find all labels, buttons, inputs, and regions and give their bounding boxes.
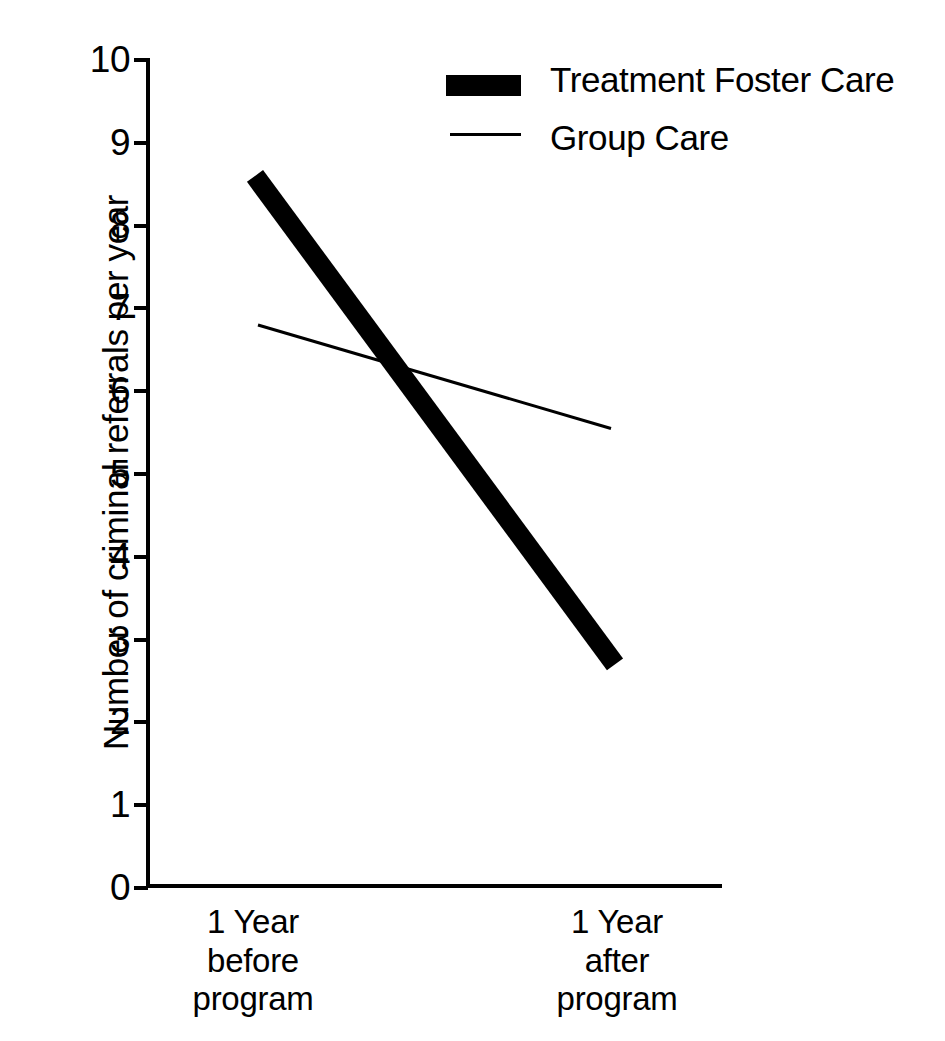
y-tick-label-5: 5 xyxy=(40,455,130,492)
x-tick-before-line1: 1 Year xyxy=(123,903,383,942)
x-tick-before-line3: program xyxy=(123,980,383,1019)
legend-label-group-care: Group Care xyxy=(550,120,729,155)
y-tick-label-10: 10 xyxy=(40,41,130,78)
x-tick-before-line2: before xyxy=(123,942,383,981)
y-tick-label-1: 1 xyxy=(40,786,130,823)
chart-legend: Treatment Foster Care Group Care xyxy=(440,62,940,178)
y-tick-label-6: 6 xyxy=(40,372,130,409)
y-tick-label-7: 7 xyxy=(40,289,130,326)
legend-item-treatment-foster-care: Treatment Foster Care xyxy=(440,62,940,120)
y-tick-label-8: 8 xyxy=(40,207,130,244)
x-tick-label-after: 1 Year after program xyxy=(487,903,747,1019)
chart-figure: Number of criminal referrals per year 10… xyxy=(0,0,945,1041)
x-tick-after-line2: after xyxy=(487,942,747,981)
legend-label-treatment-foster-care: Treatment Foster Care xyxy=(550,62,894,97)
legend-item-group-care: Group Care xyxy=(440,120,940,178)
y-tick-label-2: 2 xyxy=(40,703,130,740)
legend-thin-line-swatch-icon xyxy=(450,133,521,136)
x-tick-after-line1: 1 Year xyxy=(487,903,747,942)
series-line-treatment-foster-care xyxy=(255,176,615,665)
y-axis-ticks xyxy=(134,60,148,888)
y-tick-label-9: 9 xyxy=(40,124,130,161)
x-tick-label-before: 1 Year before program xyxy=(123,903,383,1019)
y-tick-label-4: 4 xyxy=(40,538,130,575)
legend-thick-bar-swatch-icon xyxy=(446,75,521,96)
x-tick-after-line3: program xyxy=(487,980,747,1019)
y-tick-label-0: 0 xyxy=(40,869,130,906)
y-tick-label-3: 3 xyxy=(40,621,130,658)
